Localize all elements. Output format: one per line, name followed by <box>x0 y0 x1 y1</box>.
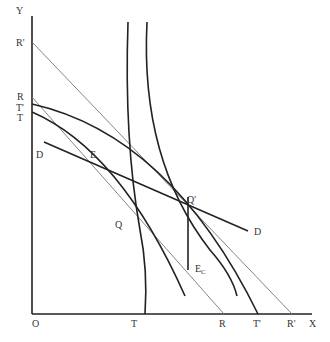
label-r-prime-x: R' <box>287 318 296 329</box>
label-d-left: D <box>36 149 43 160</box>
label-e: E <box>90 149 96 160</box>
label-r-y: R <box>17 91 24 102</box>
label-r-x: R <box>219 318 226 329</box>
label-d-right: D <box>254 226 261 237</box>
line-d <box>44 142 248 231</box>
x-axis-label: X <box>309 318 317 329</box>
y-axis-label: Y <box>16 5 23 16</box>
ppf-t <box>127 22 146 314</box>
budget-line-r <box>32 97 224 314</box>
label-r-prime-y: R' <box>16 37 25 48</box>
origin-label: O <box>32 318 39 329</box>
label-ec: EC <box>195 263 206 276</box>
trade-diagram: Y R' R T' T O T R T' R' X D E Q Q' D EC <box>0 0 330 342</box>
label-q-prime: Q' <box>187 194 196 205</box>
label-t-y: T <box>17 112 23 123</box>
label-q: Q <box>115 219 123 230</box>
label-t-x: T <box>131 318 137 329</box>
label-t-prime-x: T' <box>253 318 261 329</box>
budget-line-r-prime <box>32 42 292 314</box>
indifference-curve-lower <box>32 112 185 296</box>
indifference-curve-upper <box>146 22 237 296</box>
